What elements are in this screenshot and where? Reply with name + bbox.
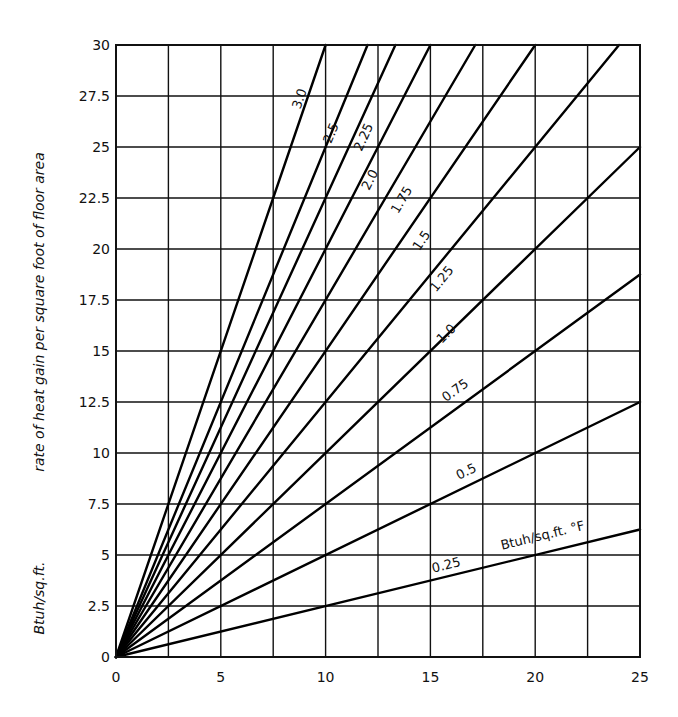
y-axis-units: Btuh/sq.ft.	[31, 561, 47, 634]
x-tick-label: 25	[631, 669, 649, 685]
y-tick-label: 30	[92, 37, 110, 53]
y-tick-label: 0	[101, 649, 110, 665]
y-tick-label: 20	[92, 241, 110, 257]
y-tick-label: 17.5	[79, 292, 110, 308]
series-label-3.0: 3.0	[289, 86, 310, 110]
x-tick-label: 0	[112, 669, 121, 685]
series-units-label: Btuh/sq.ft. °F	[499, 518, 586, 553]
heat-gain-chart: 02.557.51012.51517.52022.52527.530 05101…	[0, 0, 678, 717]
x-tick-label: 15	[421, 669, 439, 685]
series-label-2.25: 2.25	[351, 121, 377, 154]
y-tick-label: 5	[101, 547, 110, 563]
series-label-0.25: 0.25	[430, 554, 462, 575]
y-tick-label: 27.5	[79, 88, 110, 104]
y-axis-ticks: 02.557.51012.51517.52022.52527.530	[79, 37, 110, 665]
y-tick-label: 2.5	[88, 598, 110, 614]
y-tick-label: 7.5	[88, 496, 110, 512]
series-label-0.5: 0.5	[454, 460, 479, 483]
series-label-2.5: 2.5	[320, 121, 342, 146]
y-tick-label: 10	[92, 445, 110, 461]
grid	[116, 45, 640, 657]
y-tick-label: 12.5	[79, 394, 110, 410]
series-labels: 3.02.52.252.01.751.51.251.00.750.50.25Bt…	[289, 86, 586, 575]
x-tick-label: 10	[317, 669, 335, 685]
x-tick-label: 5	[216, 669, 225, 685]
x-axis-ticks: 0510152025	[112, 669, 649, 685]
series-label-1.0: 1.0	[433, 321, 458, 346]
y-axis-title: rate of heat gain per square foot of flo…	[31, 152, 47, 472]
series-label-1.25: 1.25	[427, 263, 457, 295]
y-tick-label: 15	[92, 343, 110, 359]
x-tick-label: 20	[526, 669, 544, 685]
y-tick-label: 25	[92, 139, 110, 155]
y-tick-label: 22.5	[79, 190, 110, 206]
